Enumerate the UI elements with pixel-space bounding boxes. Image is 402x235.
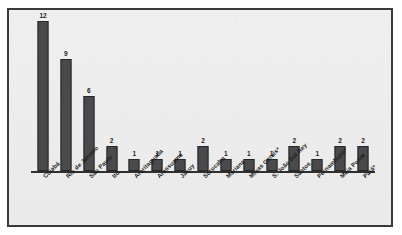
chart-frame: 1296211121112122 CuiabáRio de JaneiroSão… [7,8,393,227]
bar-group: 2 [191,21,215,171]
bar-value-label: 2 [293,137,297,145]
x-tick-group: Araritaguaba [122,173,146,220]
bar-value-label: 9 [64,50,68,58]
bar-series: 1296211121112122 [31,21,375,171]
x-tick-group: Cuiabá [31,173,55,220]
bar-group: 2 [100,21,124,171]
bar-group: 9 [54,21,78,171]
bar-group: 2 [351,21,375,171]
x-tick-group: Sorocaba [191,173,215,220]
chart-figure: 1296211121112122 CuiabáRio de JaneiroSão… [0,0,402,235]
bar [38,21,49,171]
bar-value-label: 12 [39,12,46,20]
bar-value-label: 1 [247,150,251,158]
bar-group: 12 [31,21,55,171]
x-tick-group: S. João Del Rey [260,173,284,220]
x-tick-group: São Paulo [77,173,101,220]
x-tick-group: Itú [100,173,124,220]
bar-value-label: 1 [315,150,319,158]
bar [60,59,71,172]
bar-value-label: 2 [110,137,114,145]
x-tick-group: Pernambuco* [305,173,329,220]
bar-group: 1 [305,21,329,171]
x-tick-group: Mariana [214,173,238,220]
x-tick-group: Rio de Janeiro [54,173,78,220]
bar-group: 1 [237,21,261,171]
bar-value-label: 2 [361,137,365,145]
x-tick-group: Pará* [351,173,375,220]
bar-value-label: 1 [133,150,137,158]
bar-group: 1 [122,21,146,171]
x-tick-group: Santos [282,173,306,220]
bar-value-label: 1 [224,150,228,158]
bar-value-label: 2 [338,137,342,145]
x-tick-group: Minas Gerais* [237,173,261,220]
bar-value-label: 2 [201,137,205,145]
bar-group: 1 [214,21,238,171]
bar-group: 1 [168,21,192,171]
bar-value-label: 6 [87,87,91,95]
plot-area: 1296211121112122 CuiabáRio de JaneiroSão… [23,16,379,220]
bar [198,146,209,171]
x-tick-group: Jacuy [168,173,192,220]
bar-group: 2 [328,21,352,171]
x-tick-group: Meia Ponte [328,173,352,220]
x-axis-category-labels: CuiabáRio de JaneiroSão PauloItúAraritag… [31,173,375,220]
bar-group: 1 [145,21,169,171]
x-tick-group: Arassuama [145,173,169,220]
